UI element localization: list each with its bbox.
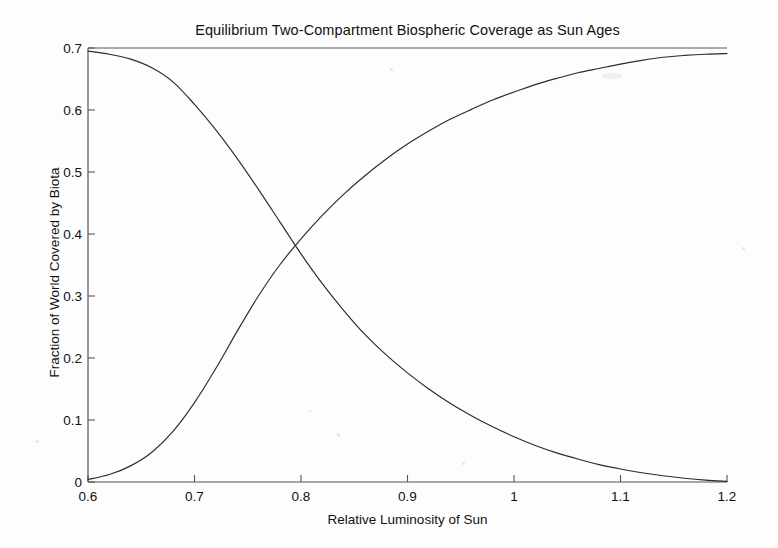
scan-speck [36, 440, 39, 443]
scan-speck [462, 462, 465, 465]
figure-canvas: Equilibrium Two-Compartment Biospheric C… [0, 0, 778, 548]
data-curves [88, 51, 727, 481]
scan-speck [309, 410, 311, 412]
plot-area [0, 0, 778, 548]
scan-speck [742, 247, 745, 250]
scan-speck [337, 433, 340, 437]
scan-speck [601, 73, 623, 79]
scan-speck [390, 68, 393, 71]
